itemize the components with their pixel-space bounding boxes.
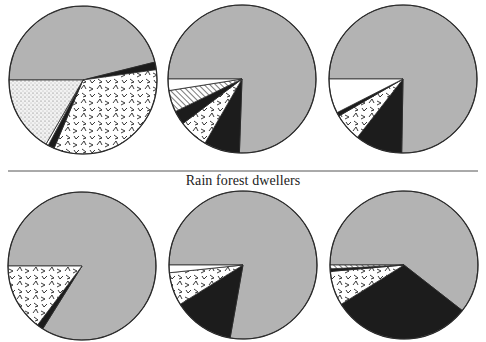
row-caption: Rain forest dwellers bbox=[0, 173, 486, 189]
pie-top-1 bbox=[9, 6, 157, 154]
pie-bottom-3 bbox=[330, 191, 478, 339]
pie-bottom-2 bbox=[169, 191, 317, 339]
pie-top-2 bbox=[168, 5, 316, 153]
pie-chart-figure bbox=[0, 0, 486, 342]
pie-top-3 bbox=[329, 5, 477, 153]
pie-bottom-1 bbox=[8, 192, 156, 340]
